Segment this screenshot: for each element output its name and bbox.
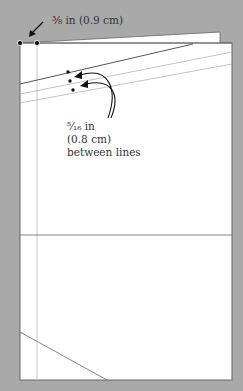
pattern-diagram: ⅜ in (0.9 cm) ⁵⁄₁₆ in (0.8 cm) between l… <box>0 0 243 391</box>
top-measurement-label: ⅜ in (0.9 cm) <box>52 14 123 26</box>
marker-dot-left <box>17 40 22 45</box>
paper-page <box>20 43 232 380</box>
spacing-dot-1 <box>66 70 69 73</box>
spacing-dot-3 <box>71 88 74 91</box>
marker-dot-right <box>34 40 39 45</box>
spacing-label-line3: between lines <box>67 146 141 158</box>
spacing-dot-2 <box>68 79 71 82</box>
arrowhead-icon <box>29 30 36 37</box>
spacing-label-line1: ⁵⁄₁₆ in <box>67 120 95 132</box>
back-page-flap <box>20 32 220 44</box>
spacing-label-line2: (0.8 cm) <box>67 133 111 145</box>
measurement-arrow-icon <box>32 22 43 33</box>
